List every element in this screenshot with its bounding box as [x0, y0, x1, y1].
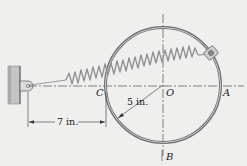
- label-point-b: B: [165, 151, 173, 162]
- label-horizontal-distance: 7 in.: [57, 116, 78, 127]
- label-point-c: C: [96, 87, 104, 98]
- diagram-figure: C O A B 5 in. 7 in.: [0, 0, 247, 166]
- spring: [66, 46, 198, 84]
- label-radius: 5 in.: [127, 96, 148, 107]
- label-point-o: O: [166, 87, 174, 98]
- wall-support: [8, 66, 20, 104]
- diagram-canvas: C O A B 5 in. 7 in.: [0, 0, 247, 166]
- spring-link: [30, 80, 66, 85]
- label-point-a: A: [222, 87, 230, 98]
